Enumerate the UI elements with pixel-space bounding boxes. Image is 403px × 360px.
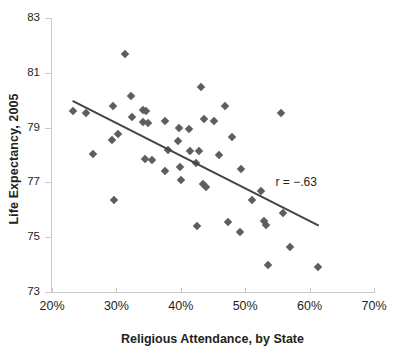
data-point — [248, 196, 256, 204]
data-point — [228, 133, 236, 141]
y-tick — [45, 128, 52, 129]
data-point — [215, 151, 223, 159]
correlation-annotation: r = −.63 — [276, 175, 317, 189]
data-point — [263, 260, 271, 268]
data-point — [176, 163, 184, 171]
scatter-chart-figure: Life Expectancy, 2005 838179777573 20%30… — [0, 0, 403, 360]
data-point — [174, 137, 182, 145]
data-point — [121, 49, 129, 57]
data-point — [88, 149, 96, 157]
x-tick-label: 30% — [86, 299, 146, 313]
data-point — [277, 108, 285, 116]
data-point — [184, 125, 192, 133]
y-tick — [45, 18, 52, 19]
x-tick — [374, 288, 375, 293]
y-tick-label: 83 — [0, 12, 40, 24]
data-point — [200, 115, 208, 123]
data-point — [148, 156, 156, 164]
data-point — [175, 123, 183, 131]
x-tick-label: 20% — [22, 299, 82, 313]
data-point — [237, 164, 245, 172]
x-axis-line — [51, 292, 375, 293]
data-point — [126, 92, 134, 100]
data-point — [193, 222, 201, 230]
data-point — [108, 101, 116, 109]
data-point — [224, 218, 232, 226]
y-tick — [45, 292, 52, 293]
data-point — [113, 130, 121, 138]
x-tick-label: 40% — [151, 299, 211, 313]
data-point — [160, 167, 168, 175]
y-tick — [45, 237, 52, 238]
data-point — [221, 101, 229, 109]
y-tick — [45, 73, 52, 74]
y-tick-label: 73 — [0, 286, 40, 298]
data-point — [186, 147, 194, 155]
data-point — [108, 136, 116, 144]
y-tick — [45, 182, 52, 183]
data-point — [144, 119, 152, 127]
data-point — [285, 243, 293, 251]
data-point — [236, 227, 244, 235]
data-point — [314, 263, 322, 271]
plot-area — [52, 18, 374, 292]
data-point — [69, 107, 77, 115]
y-tick-label: 81 — [0, 67, 40, 79]
data-point — [128, 112, 136, 120]
data-point — [177, 175, 185, 183]
x-axis-title: Religious Attendance, by State — [0, 332, 403, 346]
data-point — [195, 147, 203, 155]
y-axis-title: Life Expectancy, 2005 — [7, 59, 21, 259]
data-point — [161, 117, 169, 125]
x-tick-label: 70% — [344, 299, 403, 313]
x-tick-label: 60% — [280, 299, 340, 313]
data-point — [210, 117, 218, 125]
y-tick-label: 79 — [0, 122, 40, 134]
y-tick-label: 77 — [0, 176, 40, 188]
data-point — [197, 82, 205, 90]
y-tick-label: 75 — [0, 231, 40, 243]
x-tick-label: 50% — [215, 299, 275, 313]
data-point — [110, 196, 118, 204]
